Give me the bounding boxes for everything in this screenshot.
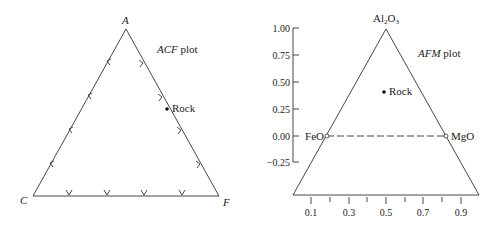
afm-y-tick-label: 1.00 [273, 23, 291, 34]
afm-y-tick-label: 0.75 [273, 50, 291, 61]
afm-y-tick-label: 0.50 [273, 77, 291, 88]
afm-x-tick-label: 0.1 [305, 207, 318, 218]
afm-x-tick-marks [311, 197, 461, 204]
afm-x-tick-label: 0.9 [455, 207, 468, 218]
afm-apex-label: Al2O3 [373, 12, 399, 26]
acf-vertex-c: C [20, 194, 28, 206]
acf-left-arrow-ticks [50, 59, 111, 167]
afm-mgo-label: MgO [451, 130, 474, 142]
acf-rock-label: Rock [172, 102, 196, 114]
acf-right-arrow-ticks [139, 60, 200, 168]
afm-feo-point [325, 134, 329, 138]
acf-title: ACF plot [156, 43, 198, 55]
acf-plot: A C F ACF plot Rock [20, 14, 230, 208]
figure-canvas: A C F ACF plot Rock 1.00 0.75 0.50 0.25 … [0, 0, 502, 233]
afm-mgo-point [444, 134, 448, 138]
afm-feo-label: FeO [305, 130, 324, 142]
acf-vertex-a: A [121, 14, 129, 26]
afm-y-tick-labels: 1.00 0.75 0.50 0.25 0.00 −0.25 [267, 23, 290, 168]
afm-x-tick-labels: 0.1 0.3 0.5 0.7 0.9 [305, 207, 468, 218]
afm-y-tick-label: −0.25 [267, 157, 290, 168]
afm-x-tick-label: 0.5 [380, 207, 393, 218]
acf-bottom-arrow-ticks [66, 190, 185, 195]
acf-rock-point [165, 107, 169, 111]
afm-y-tick-label: 0.00 [273, 131, 291, 142]
afm-x-tick-label: 0.3 [343, 207, 356, 218]
afm-rock-label: Rock [389, 85, 413, 97]
afm-x-tick-label: 0.7 [417, 207, 430, 218]
afm-y-tick-label: 0.25 [273, 104, 291, 115]
acf-vertex-f: F [222, 196, 230, 208]
afm-title: AFM plot [417, 47, 460, 59]
afm-y-tick-marks [293, 28, 299, 162]
afm-plot: 1.00 0.75 0.50 0.25 0.00 −0.25 0.1 0.3 0… [267, 12, 479, 218]
afm-rock-point [382, 90, 386, 94]
